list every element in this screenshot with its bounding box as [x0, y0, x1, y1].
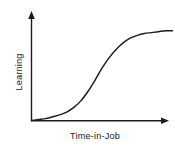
learning-curve-path [32, 31, 173, 121]
x-axis-label: Time-in-Job [70, 131, 120, 141]
chart-canvas: Learning Time-in-Job [0, 0, 175, 151]
arrow-right-icon [161, 118, 169, 125]
arrow-up-icon [28, 11, 35, 19]
learning-curve-figure: Learning Time-in-Job [0, 0, 175, 151]
y-axis-label: Learning [14, 54, 24, 91]
